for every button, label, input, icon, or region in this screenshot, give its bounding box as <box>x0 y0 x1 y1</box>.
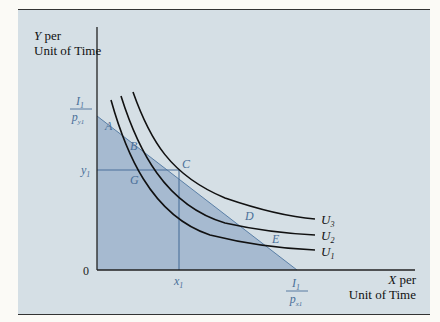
point-c-label: C <box>182 157 191 171</box>
x1-label: x1 <box>173 274 183 290</box>
svg-text:py1: py1 <box>71 110 85 126</box>
curve-u1-label: U1 <box>321 244 334 261</box>
indifference-diagram: Y per Unit of Time X per Unit of Time 0 … <box>0 0 440 322</box>
svg-text:I1: I1 <box>75 94 84 110</box>
curve-u2-label: U2 <box>321 228 334 245</box>
point-d-label: D <box>244 209 254 223</box>
origin-label: 0 <box>83 264 89 278</box>
y-axis-label-line1: Y per <box>34 28 62 43</box>
point-e-label: E <box>271 232 280 246</box>
y1-label: y1 <box>80 163 90 179</box>
curve-u3-label: U3 <box>321 212 334 229</box>
point-b-label: B <box>130 139 138 153</box>
y-axis-label-line2: Unit of Time <box>34 43 101 58</box>
x-axis-label-line1: X per <box>387 272 416 287</box>
point-g-label: G <box>130 173 139 187</box>
x-intercept-label: I1 px1 <box>286 276 308 308</box>
svg-text:px1: px1 <box>289 292 303 308</box>
svg-text:I1: I1 <box>291 276 300 292</box>
x-axis-label-line2: Unit of Time <box>349 287 416 302</box>
point-a-label: A <box>104 119 113 133</box>
y-intercept-label: I1 py1 <box>70 94 92 126</box>
